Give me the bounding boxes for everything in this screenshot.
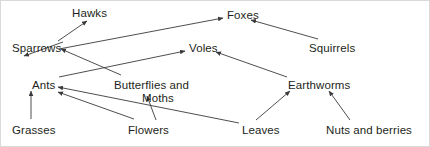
- arrow-nuts_berries-to-squirrels: [329, 91, 350, 120]
- node-label-sparrows: Sparrows: [12, 42, 61, 55]
- edges-group: [24, 18, 350, 123]
- node-label-butterflies: Butterflies and: [114, 79, 189, 92]
- node-label-ants: Ants: [32, 79, 55, 92]
- node-label-flowers: Flowers: [128, 124, 169, 137]
- arrow-flowers-to-ants: [58, 92, 134, 119]
- node-label-foxes: Foxes: [227, 9, 259, 22]
- node-label-squirrels: Squirrels: [309, 42, 355, 55]
- arrow-butterflies-to-sparrows: [61, 49, 121, 75]
- node-label-butterflies_line2: Moths: [142, 92, 174, 105]
- node-label-hawks: Hawks: [72, 7, 107, 20]
- food-web-diagram: HawksFoxesSparrowsVolesSquirrelsAntsButt…: [0, 0, 430, 147]
- node-label-voles: Voles: [189, 42, 218, 55]
- node-label-leaves: Leaves: [242, 124, 280, 137]
- arrow-earthworms-to-voles: [216, 52, 287, 77]
- node-label-grasses: Grasses: [12, 124, 56, 137]
- arrow-sparrows-to-hawks: [58, 21, 87, 41]
- arrow-squirrels-to-foxes: [251, 20, 318, 39]
- arrow-ants-to-voles: [59, 51, 185, 77]
- node-label-earthworms: Earthworms: [288, 79, 350, 92]
- node-label-nuts_berries: Nuts and berries: [326, 124, 412, 137]
- arrow-leaves-to-earthworms: [256, 91, 290, 120]
